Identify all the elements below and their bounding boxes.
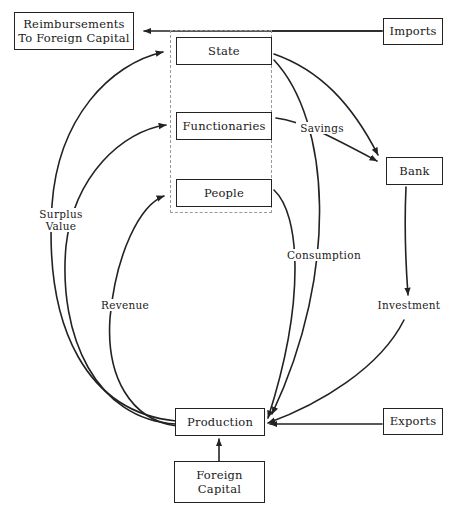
node-exports[interactable]: Exports — [383, 408, 443, 435]
edge-label-consumption: Consumption — [284, 249, 364, 261]
diagram-canvas: Reimbursements To Foreign Capital Import… — [0, 0, 462, 518]
edge-state-to-production — [272, 60, 320, 414]
edge-label-revenue: Revenue — [96, 299, 154, 311]
node-bank[interactable]: Bank — [386, 157, 443, 185]
node-people[interactable]: People — [176, 179, 272, 207]
node-reimbursements[interactable]: Reimbursements To Foreign Capital — [14, 12, 134, 50]
edge-label-surplus-value: Surplus Value — [32, 208, 90, 232]
edge-bank-to-investment — [405, 187, 408, 295]
edge-label-savings: Savings — [296, 122, 348, 134]
node-imports[interactable]: Imports — [383, 18, 443, 45]
node-foreign-capital[interactable]: Foreign Capital — [174, 461, 265, 503]
edge-label-investment: Investment — [374, 299, 444, 311]
node-state[interactable]: State — [176, 37, 272, 65]
node-functionaries[interactable]: Functionaries — [176, 112, 272, 140]
node-production[interactable]: Production — [175, 408, 265, 436]
edge-people-to-production — [268, 190, 295, 418]
edge-production-to-functionaries — [65, 125, 176, 424]
edge-state-to-bank — [274, 54, 378, 155]
